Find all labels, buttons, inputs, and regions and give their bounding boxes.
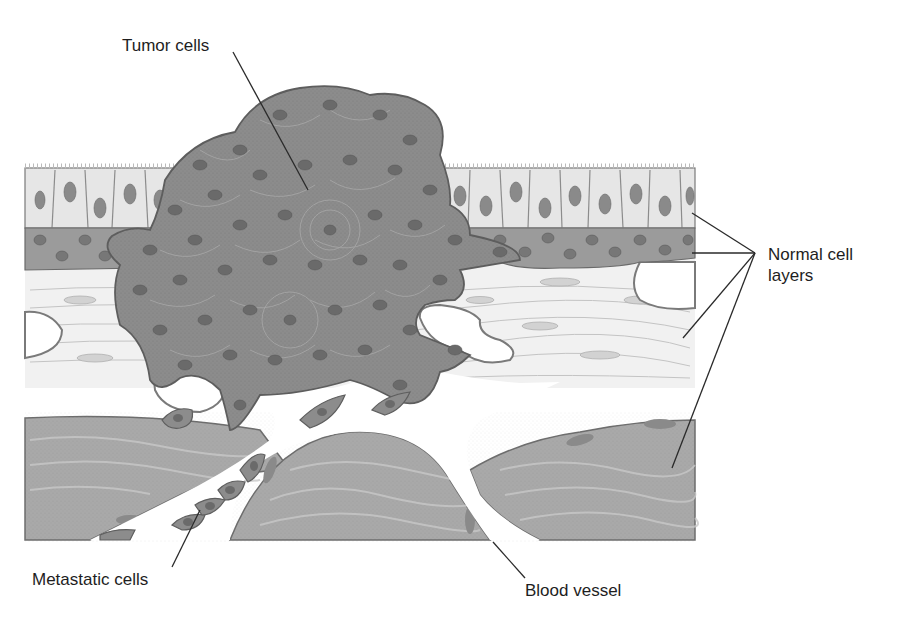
leader-blood-vessel — [493, 542, 525, 578]
leader-normal-epithelium — [692, 213, 755, 253]
normal-cell-layers-line2: layers — [768, 265, 853, 286]
normal-cell-layers-line1: Normal cell — [768, 244, 853, 265]
blood-vessel-label: Blood vessel — [525, 580, 621, 601]
tumor-diagram — [0, 0, 906, 622]
tumor-cells-label: Tumor cells — [122, 35, 209, 56]
metastatic-cells-label: Metastatic cells — [32, 569, 148, 590]
normal-cell-layers-label: Normal cell layers — [768, 244, 853, 286]
